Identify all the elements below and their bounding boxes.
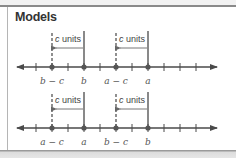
point-dot [81,125,86,130]
point-dot [81,64,86,69]
point-dot [145,64,150,69]
point-label: a − c [104,76,128,86]
offset-label: c units [55,95,82,105]
point-label: a − c [40,137,64,147]
offset-label: c units [119,95,146,105]
point-dot [113,64,118,69]
number-line-diagram: c units c units b − c b a − c a [0,0,236,158]
offset-label: c units [55,34,82,44]
point-label: a [81,137,86,147]
point-label: b [81,76,87,86]
point-dot [49,125,54,130]
point-dot [145,125,150,130]
number-line-model-2: c units c units a − c a b − c b [17,92,217,147]
point-dot [49,64,54,69]
number-line-model-1: c units c units b − c b a − c a [17,31,217,86]
point-label: b − c [104,137,128,147]
offset-label: c units [119,34,146,44]
point-label: a [145,76,150,86]
point-label: b [145,137,151,147]
point-label: b − c [40,76,64,86]
point-dot [113,125,118,130]
